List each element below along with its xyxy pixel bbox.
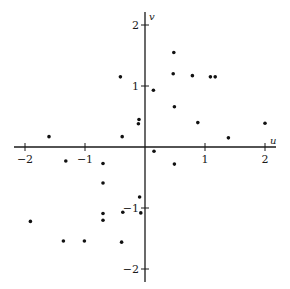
data-point (173, 105, 177, 109)
v-tick-label: −2 (123, 263, 139, 276)
data-point (227, 136, 231, 140)
v-tick-label: −1 (123, 202, 139, 215)
data-point (120, 240, 124, 244)
data-point (172, 51, 176, 55)
data-point (47, 135, 51, 139)
u-tick-label: −2 (17, 153, 33, 166)
data-point (213, 75, 217, 79)
data-point (101, 212, 105, 216)
v-tick-label: 2 (132, 19, 139, 32)
scatter-chart: u v −2−11221−1−2 (0, 0, 290, 289)
u-axis-label: u (270, 135, 276, 146)
data-point (137, 122, 141, 126)
data-point (83, 239, 87, 243)
data-point (101, 181, 105, 185)
data-point (209, 75, 213, 79)
data-point (196, 121, 200, 125)
u-tick-label: −1 (77, 153, 93, 166)
data-point (191, 74, 195, 78)
data-point (152, 88, 156, 92)
data-point (152, 149, 156, 153)
data-point (119, 75, 123, 79)
data-point (101, 218, 105, 222)
data-point (173, 162, 177, 166)
data-point (29, 220, 33, 224)
u-tick-label: 2 (262, 153, 269, 166)
data-point (64, 159, 68, 163)
v-tick-label: 1 (132, 80, 139, 93)
data-point (101, 162, 105, 166)
data-point (137, 118, 141, 122)
data-point (263, 121, 267, 125)
data-point (120, 135, 124, 139)
data-point (121, 210, 125, 214)
u-tick-label: 1 (202, 153, 209, 166)
v-axis-label: v (149, 11, 155, 22)
data-point (171, 72, 175, 76)
data-point (139, 211, 143, 215)
data-point (138, 195, 142, 199)
data-point (62, 239, 66, 243)
